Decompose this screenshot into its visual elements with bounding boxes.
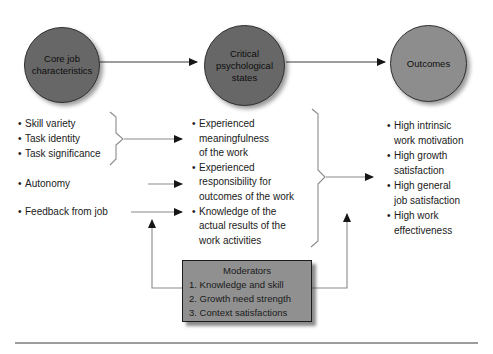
list-item: • High intrinsic work motivation bbox=[387, 118, 487, 148]
brace-core-items bbox=[110, 112, 123, 165]
circle-psych-label: Critical psychological states bbox=[216, 48, 273, 84]
circle-core-job-characteristics: Core job characteristics bbox=[24, 27, 100, 103]
core-characteristics-group: • Skill variety • Task identity • Task s… bbox=[18, 116, 101, 161]
bullet-icon: • bbox=[18, 176, 25, 191]
list-item: • Experienced meaningfulness of the work bbox=[192, 117, 316, 161]
psychological-states-list: • Experienced meaningfulness of the work… bbox=[192, 117, 316, 248]
bullet-icon: • bbox=[387, 148, 394, 163]
bullet-icon: • bbox=[387, 118, 394, 133]
outcomes-list: • High intrinsic work motivation • High … bbox=[387, 118, 487, 238]
list-item: • High growth satisfaction bbox=[387, 148, 487, 178]
connector-moderators-left bbox=[152, 220, 182, 288]
moderators-title: Moderators bbox=[183, 264, 311, 278]
job-characteristics-model-diagram: Core job characteristics Critical psycho… bbox=[0, 0, 493, 354]
moderator-item: 3. Context satisfactions bbox=[189, 306, 311, 320]
list-item: • Task identity bbox=[18, 131, 101, 146]
bullet-icon: • bbox=[387, 208, 394, 223]
bullet-icon: • bbox=[387, 178, 394, 193]
bullet-icon: • bbox=[18, 116, 25, 131]
moderator-item: 1. Knowledge and skill bbox=[189, 278, 311, 292]
list-item: • Task significance bbox=[18, 146, 101, 161]
bullet-icon: • bbox=[192, 205, 199, 220]
connector-moderators-right bbox=[312, 214, 347, 288]
list-item: • Knowledge of the actual results of the… bbox=[192, 205, 316, 249]
list-item-feedback: • Feedback from job bbox=[18, 204, 108, 219]
circle-core-label: Core job characteristics bbox=[32, 53, 93, 77]
moderator-item: 2. Growth need strength bbox=[189, 292, 311, 306]
list-item: • High work effectiveness bbox=[387, 208, 487, 238]
list-item: • High general job satisfaction bbox=[387, 178, 487, 208]
list-item: • Skill variety bbox=[18, 116, 101, 131]
moderators-box: Moderators 1. Knowledge and skill 2. Gro… bbox=[182, 260, 312, 322]
circle-critical-psychological-states: Critical psychological states bbox=[204, 25, 285, 106]
circle-outcomes-label: Outcomes bbox=[407, 58, 450, 70]
list-item: • Experienced responsibility for outcome… bbox=[192, 161, 316, 205]
bullet-icon: • bbox=[18, 146, 25, 161]
list-item-autonomy: • Autonomy bbox=[18, 176, 70, 191]
bullet-icon: • bbox=[18, 204, 25, 219]
bullet-icon: • bbox=[18, 131, 25, 146]
circle-outcomes: Outcomes bbox=[390, 25, 467, 102]
bullet-icon: • bbox=[192, 161, 199, 176]
bullet-icon: • bbox=[192, 117, 199, 132]
